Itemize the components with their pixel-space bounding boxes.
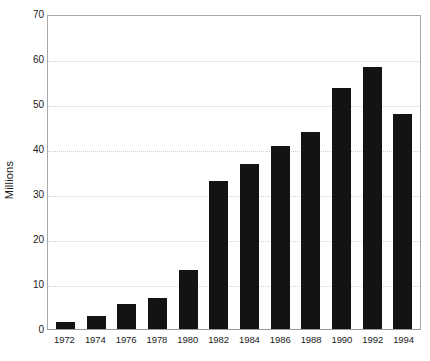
x-tick-label: 1988	[296, 334, 327, 345]
y-tick-label-60: 60	[22, 55, 44, 65]
bar-slot	[203, 16, 234, 329]
bar-slot	[173, 16, 204, 329]
bar-slot	[265, 16, 296, 329]
y-tick-label-50: 50	[22, 100, 44, 110]
bar-slot	[50, 16, 81, 329]
bar[interactable]	[209, 181, 228, 329]
bar-slot	[142, 16, 173, 329]
x-tick-label: 1980	[172, 334, 203, 345]
bar[interactable]	[179, 270, 198, 329]
x-tick-label: 1994	[388, 334, 419, 345]
x-tick-label: 1976	[111, 334, 142, 345]
x-tick-label: 1972	[49, 334, 80, 345]
x-tick-label: 1982	[203, 334, 234, 345]
y-tick-label-10: 10	[22, 280, 44, 290]
bar-slot	[111, 16, 142, 329]
bar-slot	[295, 16, 326, 329]
y-tick-label-70: 70	[22, 10, 44, 20]
bar[interactable]	[148, 298, 167, 329]
bar[interactable]	[117, 304, 136, 329]
bar-slot	[234, 16, 265, 329]
bar[interactable]	[56, 322, 75, 329]
bar-slot	[387, 16, 418, 329]
y-tick-label-0: 0	[22, 325, 44, 335]
x-tick-label: 1990	[326, 334, 357, 345]
plot-area	[47, 15, 421, 330]
bar[interactable]	[393, 114, 412, 329]
bar-slot	[81, 16, 112, 329]
bar[interactable]	[240, 164, 259, 329]
y-tick-label-20: 20	[22, 235, 44, 245]
bar[interactable]	[363, 67, 382, 329]
bar[interactable]	[332, 88, 351, 329]
bars-layer	[48, 16, 420, 329]
y-tick-label-40: 40	[22, 145, 44, 155]
bar-chart: Millions 70 60 50 40 30 20 10 0 19721974…	[0, 0, 430, 361]
bar-slot	[326, 16, 357, 329]
x-tick-label: 1974	[80, 334, 111, 345]
bar[interactable]	[301, 132, 320, 329]
y-axis-tick-labels: 70 60 50 40 30 20 10 0	[18, 0, 44, 361]
y-axis-title: Millions	[2, 125, 16, 235]
x-tick-label: 1978	[141, 334, 172, 345]
y-tick-label-30: 30	[22, 190, 44, 200]
y-axis-title-text: Millions	[3, 161, 15, 199]
x-tick-label: 1992	[357, 334, 388, 345]
bar-slot	[357, 16, 388, 329]
x-axis-tick-labels: 1972197419761978198019821984198619881990…	[47, 334, 421, 345]
x-tick-label: 1984	[234, 334, 265, 345]
bar[interactable]	[271, 146, 290, 329]
x-tick-label: 1986	[265, 334, 296, 345]
bar[interactable]	[87, 316, 106, 329]
